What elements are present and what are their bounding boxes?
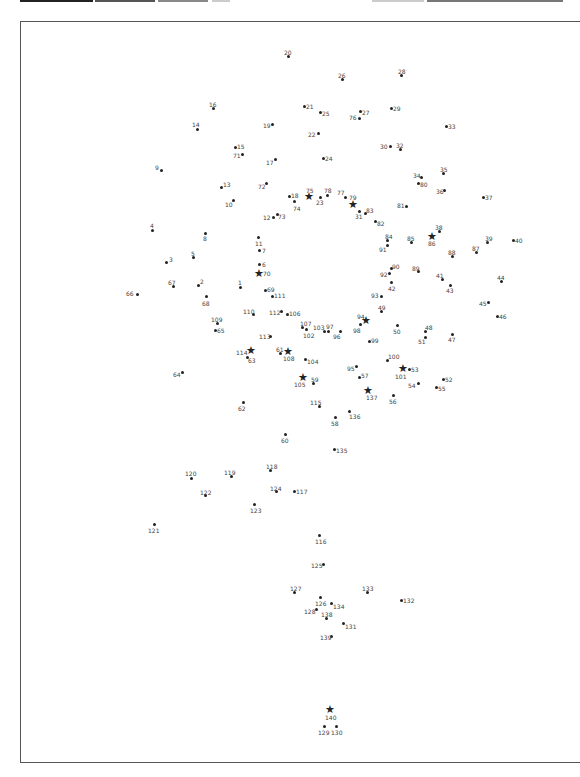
point-number-label: 123 [250, 507, 261, 514]
toolbar-segment [427, 0, 563, 2]
point-number-label: 92 [380, 271, 388, 278]
point-number-label: 12 [263, 214, 271, 221]
star-point-icon: ★ [398, 363, 408, 374]
point-number-label: 116 [315, 538, 326, 545]
point-number-label: 67 [168, 279, 176, 286]
point-number-label: 82 [377, 220, 385, 227]
point-number-label: 44 [497, 274, 505, 281]
point-number-label: 62 [238, 405, 246, 412]
toolbar-segment [212, 0, 230, 2]
point-number-label: 134 [333, 603, 344, 610]
top-toolbar-strip [0, 0, 563, 3]
point-number-label: 9 [155, 164, 159, 171]
point-number-label: 115 [310, 399, 321, 406]
point-number-label: 104 [307, 358, 318, 365]
point-number-label: 53 [411, 366, 419, 373]
point-number-label: 119 [224, 469, 235, 476]
toolbar-segment [372, 0, 424, 2]
point-number-label: 17 [266, 159, 274, 166]
point-number-label: 65 [217, 327, 225, 334]
point-number-label: 54 [408, 382, 416, 389]
point-number-label: 74 [293, 205, 301, 212]
point-number-label: 72 [258, 183, 266, 190]
point-number-label: 25 [322, 110, 330, 117]
star-point-icon: ★ [325, 704, 335, 715]
dot-point [389, 145, 392, 148]
point-number-label: 138 [321, 611, 332, 618]
point-number-label: 60 [281, 437, 289, 444]
point-number-label: 5 [191, 250, 195, 257]
point-number-label: 140 [325, 714, 336, 721]
point-number-label: 76 [349, 114, 357, 121]
point-number-label: 40 [515, 237, 523, 244]
point-number-label: 70 [263, 270, 271, 277]
point-number-label: 2 [200, 278, 204, 285]
point-number-label: 51 [418, 338, 426, 345]
point-number-label: 59 [311, 376, 319, 383]
dot-point [318, 534, 321, 537]
point-number-label: 106 [289, 310, 300, 317]
dot-point [258, 249, 261, 252]
point-number-label: 10 [225, 201, 233, 208]
dot-point [205, 295, 208, 298]
point-number-label: 87 [472, 245, 480, 252]
point-number-label: 22 [308, 131, 316, 138]
point-number-label: 8 [203, 235, 207, 242]
point-number-label: 94 [357, 313, 365, 320]
dot-point [319, 596, 322, 599]
point-number-label: 42 [388, 285, 396, 292]
point-number-label: 75 [306, 187, 314, 194]
puzzle-page [20, 21, 580, 763]
point-number-label: 108 [283, 355, 294, 362]
point-number-label: 80 [420, 181, 428, 188]
dot-point [272, 216, 275, 219]
point-number-label: 99 [371, 337, 379, 344]
point-number-label: 112 [269, 309, 280, 316]
point-number-label: 107 [300, 320, 311, 327]
dot-point [380, 295, 383, 298]
point-number-label: 114 [236, 349, 247, 356]
point-number-label: 125 [311, 562, 322, 569]
point-number-label: 109 [211, 316, 222, 323]
point-number-label: 37 [485, 194, 493, 201]
point-number-label: 128 [304, 608, 315, 615]
point-number-label: 136 [349, 413, 360, 420]
point-number-label: 15 [237, 143, 245, 150]
dot-point [160, 169, 163, 172]
point-number-label: 30 [380, 143, 388, 150]
point-number-label: 85 [407, 235, 415, 242]
point-number-label: 137 [366, 394, 377, 401]
point-number-label: 127 [290, 585, 301, 592]
point-number-label: 93 [371, 292, 379, 299]
point-number-label: 126 [315, 600, 326, 607]
star-point-icon: ★ [246, 345, 256, 356]
point-number-label: 32 [396, 142, 404, 149]
point-number-label: 100 [388, 353, 399, 360]
point-number-label: 121 [148, 527, 159, 534]
dot-point [136, 293, 139, 296]
point-number-label: 4 [150, 222, 154, 229]
point-number-label: 14 [192, 121, 200, 128]
dot-point [293, 200, 296, 203]
point-number-label: 7 [262, 247, 266, 254]
point-number-label: 120 [185, 470, 196, 477]
point-number-label: 45 [479, 300, 487, 307]
point-number-label: 77 [337, 189, 345, 196]
point-number-label: 41 [436, 272, 444, 279]
point-number-label: 97 [326, 323, 334, 330]
point-number-label: 113 [259, 333, 270, 340]
toolbar-segment [158, 0, 208, 2]
point-number-label: 95 [347, 365, 355, 372]
point-number-label: 129 [318, 729, 329, 736]
point-number-label: 43 [446, 287, 454, 294]
point-number-label: 33 [448, 123, 456, 130]
point-number-label: 98 [353, 327, 361, 334]
point-number-label: 50 [393, 328, 401, 335]
point-number-label: 68 [202, 300, 210, 307]
dot-point [392, 394, 395, 397]
point-number-label: 110 [243, 308, 254, 315]
point-number-label: 57 [361, 372, 369, 379]
point-number-label: 27 [362, 109, 370, 116]
point-number-label: 88 [448, 249, 456, 256]
dot-point [323, 725, 326, 728]
